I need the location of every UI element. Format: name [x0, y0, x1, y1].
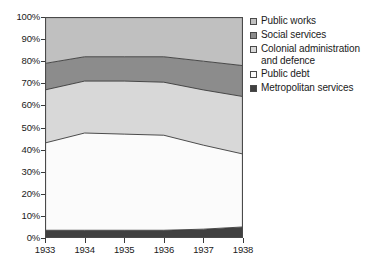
x-axis-tick-mark	[124, 238, 125, 243]
legend-swatch-icon	[250, 46, 257, 53]
legend-item[interactable]: Public works	[250, 15, 386, 28]
legend-item[interactable]: Colonial administration and defence	[250, 43, 386, 67]
x-axis-tick-label: 1938	[220, 244, 266, 256]
chart-legend: Public worksSocial servicesColonial admi…	[250, 15, 386, 96]
legend-item[interactable]: Social services	[250, 29, 386, 42]
y-axis-tick-label: 60%	[0, 100, 40, 110]
legend-swatch-icon	[250, 85, 257, 92]
x-axis-tick-mark	[243, 238, 244, 243]
y-axis-tick-label: 30%	[0, 167, 40, 177]
x-axis-tick-mark	[85, 238, 86, 243]
plot-area	[45, 17, 243, 238]
legend-swatch-icon	[250, 71, 257, 78]
y-axis-tick-label: 100%	[0, 12, 40, 22]
y-axis-tick-label: 20%	[0, 189, 40, 199]
legend-item-label: Public debt	[261, 68, 309, 80]
y-axis-tick-label: 50%	[0, 123, 40, 133]
y-axis-tick-label: 90%	[0, 34, 40, 44]
legend-item-label: Public works	[261, 15, 316, 27]
stacked-area-chart: 0%10%20%30%40%50%60%70%80%90%100% 193319…	[0, 0, 388, 272]
y-axis-labels: 0%10%20%30%40%50%60%70%80%90%100%	[0, 17, 40, 238]
y-axis-tick-label: 10%	[0, 211, 40, 221]
y-axis-tick-label: 0%	[0, 233, 40, 243]
y-axis-tick-label: 80%	[0, 56, 40, 66]
legend-swatch-icon	[250, 32, 257, 39]
legend-item-label: Colonial administration and defence	[261, 43, 360, 67]
x-axis-ticks	[45, 238, 243, 243]
x-axis-tick-mark	[203, 238, 204, 243]
area-series-svg	[45, 17, 243, 238]
legend-item-label: Social services	[261, 29, 326, 41]
x-axis-labels: 193319341935193619371938	[0, 244, 290, 260]
x-axis-tick-mark	[45, 238, 46, 243]
legend-item[interactable]: Metropolitan services	[250, 82, 386, 95]
legend-swatch-icon	[250, 18, 257, 25]
x-axis-tick-mark	[164, 238, 165, 243]
y-axis-tick-label: 40%	[0, 145, 40, 155]
legend-item-label: Metropolitan services	[261, 82, 353, 94]
legend-item[interactable]: Public debt	[250, 68, 386, 81]
y-axis-tick-label: 70%	[0, 78, 40, 88]
